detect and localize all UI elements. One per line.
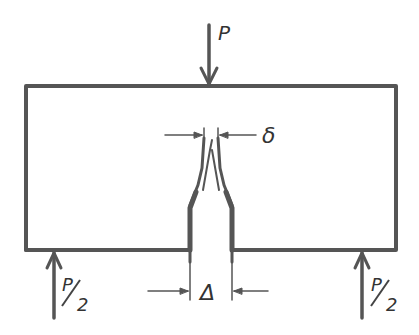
left-reaction-label-denominator: 2: [77, 294, 88, 315]
crack-tip: [203, 140, 219, 190]
slot-right-thick: [226, 192, 232, 250]
tip-gap-label: δ: [262, 123, 275, 148]
diagram-canvas: P δ Δ P 2 P 2: [0, 0, 419, 335]
slot-left-thick: [190, 192, 196, 250]
right-reaction-label-denominator: 2: [386, 294, 397, 315]
block-outline: [26, 86, 396, 250]
base-gap-label: Δ: [198, 280, 215, 305]
top-load-label: P: [218, 21, 231, 45]
